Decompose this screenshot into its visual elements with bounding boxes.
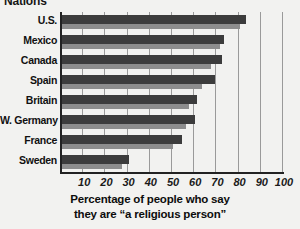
category-label: U.S. <box>0 14 57 26</box>
x-tick-label: 60 <box>189 176 201 188</box>
x-tick-label: 70 <box>211 176 223 188</box>
bar-u-s <box>62 15 246 24</box>
bar-shadow <box>62 124 186 129</box>
bar-row <box>62 115 284 135</box>
bar-shadow <box>62 104 189 109</box>
bar-shadow <box>62 164 122 169</box>
x-axis-caption: Percentage of people who say they are “a… <box>0 192 300 222</box>
bar-w-germany <box>62 115 195 124</box>
category-label: Sweden <box>0 154 57 166</box>
x-tick-label: 100 <box>275 176 293 188</box>
bar-row <box>62 135 284 155</box>
category-axis-labels: U.S.MexicoCanadaSpainBritainW. GermanyFr… <box>0 12 57 174</box>
chart-title: Nations <box>4 0 47 6</box>
bar-france <box>62 135 182 144</box>
category-label: Spain <box>0 74 57 86</box>
x-tick-label: 30 <box>122 176 134 188</box>
bar-sweden <box>62 155 129 164</box>
x-axis-caption-line-2: they are “a religious person” <box>0 207 300 222</box>
category-label: Mexico <box>0 34 57 46</box>
bar-shadow <box>62 144 173 149</box>
x-tick-label: 20 <box>100 176 112 188</box>
bar-spain <box>62 75 215 84</box>
bar-shadow <box>62 44 220 49</box>
x-axis-tick-labels: 102030405060708090100 <box>60 176 290 190</box>
bar-britain <box>62 95 197 104</box>
bar-row <box>62 75 284 95</box>
bar-mexico <box>62 35 224 44</box>
x-tick-label: 10 <box>78 176 90 188</box>
x-tick-label: 40 <box>145 176 157 188</box>
x-axis-line <box>60 172 284 174</box>
category-label: Britain <box>0 94 57 106</box>
plot-area <box>60 12 284 174</box>
bar-shadow <box>62 64 211 69</box>
x-tick-label: 80 <box>233 176 245 188</box>
bar-row <box>62 35 284 55</box>
bar-row <box>62 55 284 75</box>
x-tick-label: 50 <box>167 176 179 188</box>
category-label: Canada <box>0 54 57 66</box>
bars-layer <box>62 12 284 172</box>
bar-row <box>62 95 284 115</box>
bar-row <box>62 15 284 35</box>
category-label: W. Germany <box>0 114 57 126</box>
y-axis-line <box>60 12 62 174</box>
bar-canada <box>62 55 222 64</box>
bar-shadow <box>62 24 240 29</box>
x-tick-label: 90 <box>256 176 268 188</box>
bar-shadow <box>62 84 202 89</box>
x-axis-caption-line-1: Percentage of people who say <box>0 192 300 207</box>
category-label: France <box>0 134 57 146</box>
